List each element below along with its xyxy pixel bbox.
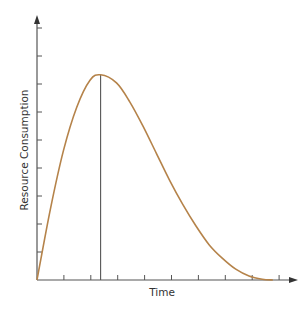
chart: Time Resource Consumption xyxy=(0,0,306,312)
resource-consumption-curve xyxy=(37,75,273,280)
x-axis-label: Time xyxy=(148,286,175,298)
y-axis-label: Resource Consumption xyxy=(18,89,30,210)
y-axis-arrow-icon xyxy=(34,15,40,24)
y-axis-ticks xyxy=(37,28,42,252)
x-axis-arrow-icon xyxy=(289,277,298,283)
